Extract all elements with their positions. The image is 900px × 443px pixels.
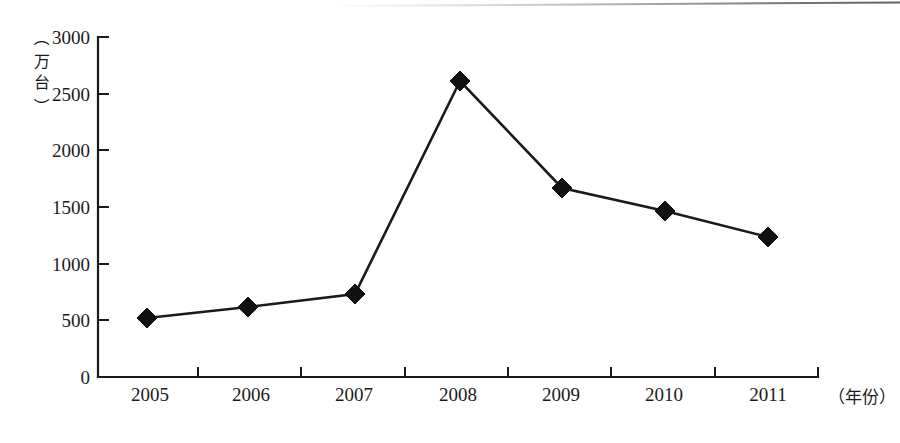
chart-page: （ 万 台 ） 0 500 1000 1500 2000 2500 3000 bbox=[0, 0, 900, 443]
y-tick-label-6: 3000 bbox=[52, 27, 90, 48]
y-tick-label-2: 1000 bbox=[52, 254, 90, 275]
data-point-2010 bbox=[655, 201, 675, 221]
x-tick-label-2005: 2005 bbox=[131, 384, 169, 405]
data-point-2006 bbox=[238, 297, 258, 317]
x-tick-label-2011: 2011 bbox=[749, 384, 786, 405]
y-axis-title-char-0: （ bbox=[32, 30, 51, 46]
x-tick-label-2006: 2006 bbox=[232, 384, 270, 405]
x-axis-ticks bbox=[198, 367, 818, 377]
data-series-line bbox=[147, 81, 768, 318]
y-axis-title-char-1: 万 bbox=[34, 52, 50, 71]
y-axis-title: （ 万 台 ） bbox=[32, 30, 51, 114]
y-axis-title-char-3: ） bbox=[32, 98, 51, 114]
data-point-2007 bbox=[345, 284, 365, 304]
line-chart: （ 万 台 ） 0 500 1000 1500 2000 2500 3000 bbox=[0, 0, 900, 443]
x-axis-labels: 2005 2006 2007 2008 2009 2010 2011 bbox=[131, 384, 787, 405]
y-tick-label-3: 1500 bbox=[52, 197, 90, 218]
x-tick-label-2009: 2009 bbox=[542, 384, 580, 405]
y-axis-title-char-2: 台 bbox=[34, 73, 50, 92]
data-point-2005 bbox=[137, 308, 157, 328]
y-tick-label-1: 500 bbox=[62, 310, 91, 331]
y-tick-label-0: 0 bbox=[81, 367, 91, 388]
y-tick-label-4: 2000 bbox=[52, 140, 90, 161]
y-tick-label-5: 2500 bbox=[52, 84, 90, 105]
x-tick-label-2008: 2008 bbox=[439, 384, 477, 405]
x-tick-label-2007: 2007 bbox=[335, 384, 373, 405]
x-axis-title: （年份） bbox=[828, 387, 896, 407]
data-point-2011 bbox=[758, 227, 778, 247]
data-markers bbox=[137, 71, 778, 328]
x-tick-label-2010: 2010 bbox=[645, 384, 683, 405]
y-axis-ticks: 0 500 1000 1500 2000 2500 3000 bbox=[52, 27, 109, 388]
